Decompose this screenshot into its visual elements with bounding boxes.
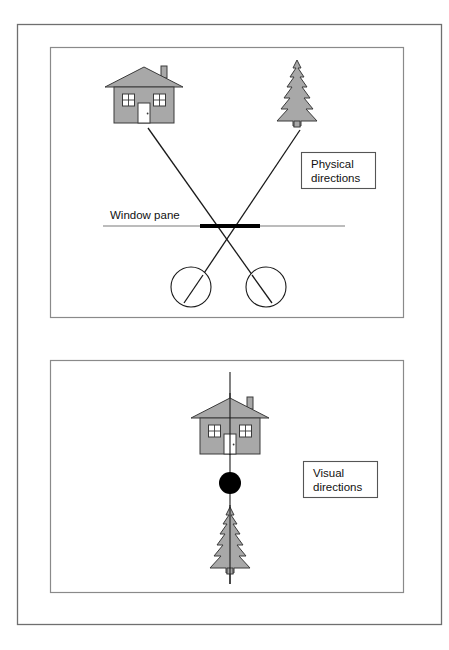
figure-container: Window pane Physical directions	[0, 0, 449, 650]
physical-directions-label-line2: directions	[311, 172, 360, 184]
diagram-canvas: Window pane Physical directions	[0, 0, 449, 650]
evergreen-tree-icon	[277, 60, 317, 127]
eye-circle-icon-left	[171, 267, 211, 307]
visual-directions-label-line1: Visual	[313, 467, 344, 479]
visual-directions-label-line2: directions	[313, 481, 362, 493]
fixation-dot-icon	[219, 472, 241, 494]
visual-directions-label: Visual directions	[304, 462, 378, 498]
house-icon	[105, 66, 183, 123]
physical-directions-label-line1: Physical	[311, 158, 354, 170]
physical-directions-label: Physical directions	[302, 153, 376, 189]
window-pane-label: Window pane	[110, 209, 180, 221]
visual-directions-panel: Visual directions	[51, 361, 404, 593]
eye-circle-icon-right	[246, 267, 286, 307]
physical-directions-panel: Window pane Physical directions	[51, 48, 404, 318]
